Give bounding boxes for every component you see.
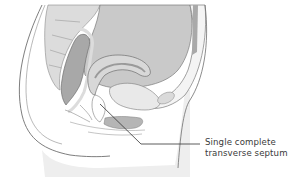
label-line-1: Single complete — [205, 137, 288, 148]
septum-label: Single complete transverse septum — [205, 137, 288, 159]
label-line-2: transverse septum — [205, 148, 288, 159]
